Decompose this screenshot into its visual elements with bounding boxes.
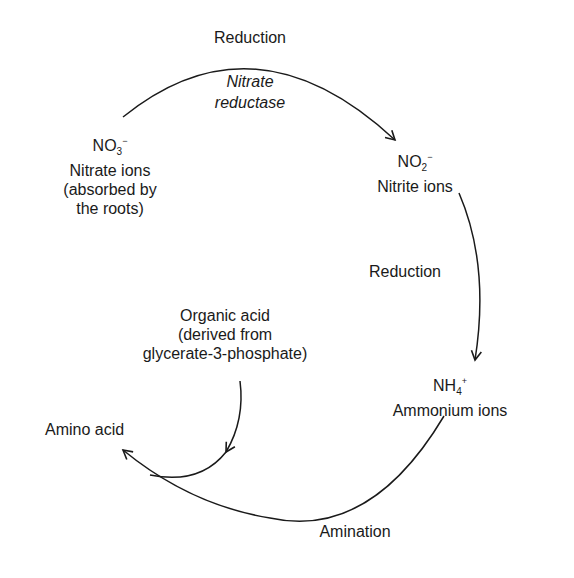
enzyme-label-line1: Nitrate bbox=[200, 72, 300, 91]
edge-label-amination: Amination bbox=[305, 522, 405, 541]
edge-label-reduction-2: Reduction bbox=[360, 262, 450, 281]
nitrate-note-2: the roots) bbox=[40, 199, 180, 218]
nitrate-note-1: (absorbed by bbox=[40, 180, 180, 199]
organic-acid-join-curve bbox=[150, 452, 226, 477]
node-amino-acid: Amino acid bbox=[45, 420, 155, 439]
organic-acid-name: Organic acid bbox=[115, 306, 335, 325]
organic-acid-note-2: glycerate-3-phosphate) bbox=[115, 344, 335, 363]
node-organic-acid: Organic acid (derived from glycerate-3-p… bbox=[115, 306, 335, 363]
nitrate-formula: NO3− bbox=[40, 132, 180, 161]
node-nitrite: NO2− Nitrite ions bbox=[350, 148, 480, 196]
nitrite-name: Nitrite ions bbox=[350, 177, 480, 196]
organic-acid-note-1: (derived from bbox=[115, 325, 335, 344]
edge-label-reduction-1: Reduction bbox=[200, 28, 300, 47]
ammonium-formula: NH4+ bbox=[375, 372, 525, 401]
arrow-ammonium-to-amino-acid bbox=[123, 416, 444, 521]
nitrate-name: Nitrate ions bbox=[40, 161, 180, 180]
enzyme-label-line2: reductase bbox=[195, 93, 305, 112]
node-ammonium: NH4+ Ammonium ions bbox=[375, 372, 525, 420]
arrow-organic-acid-to-amination bbox=[226, 381, 241, 452]
node-nitrate: NO3− Nitrate ions (absorbed by the roots… bbox=[40, 132, 180, 218]
arrow-nitrite-to-ammonium bbox=[459, 193, 480, 360]
ammonium-name: Ammonium ions bbox=[375, 401, 525, 420]
nitrite-formula: NO2− bbox=[350, 148, 480, 177]
